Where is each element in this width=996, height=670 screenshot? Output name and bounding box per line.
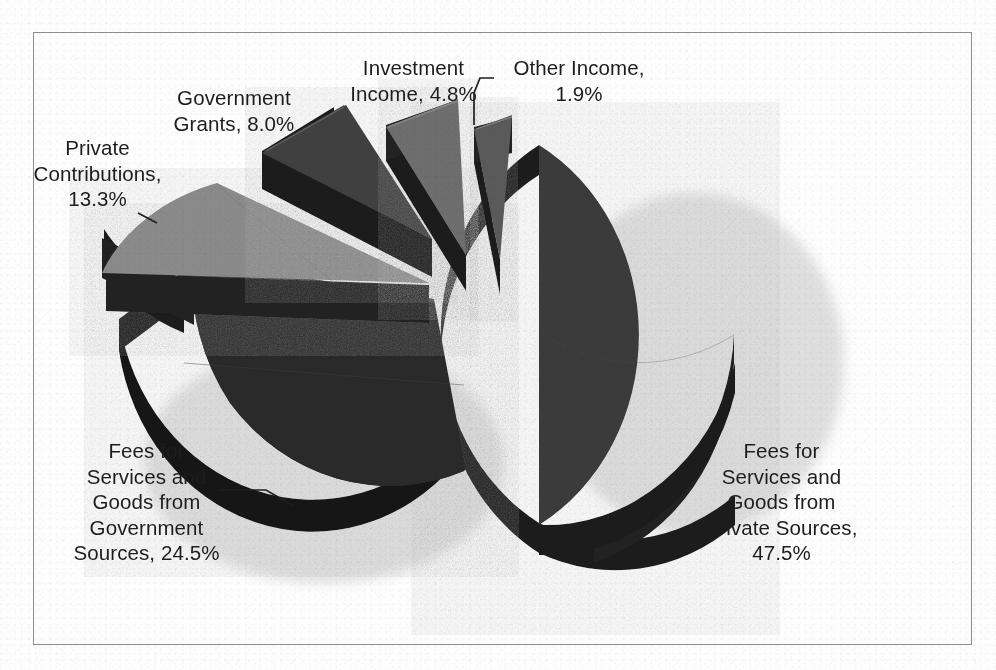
- label-investment-income: Investment Income, 4.8%: [326, 55, 501, 106]
- chart-frame: Government Grants, 8.0% Investment Incom…: [33, 32, 972, 645]
- pie-chart-plot: Government Grants, 8.0% Investment Incom…: [34, 33, 971, 644]
- label-government-sources: Fees for Services and Goods from Governm…: [64, 438, 229, 566]
- label-other-income: Other Income, 1.9%: [499, 55, 659, 106]
- chart-page: Government Grants, 8.0% Investment Incom…: [0, 0, 996, 670]
- label-government-grants: Government Grants, 8.0%: [144, 85, 324, 136]
- label-private-contributions: Private Contributions, 13.3%: [10, 135, 185, 212]
- label-private-sources: Fees for Services and Goods from Private…: [689, 438, 874, 566]
